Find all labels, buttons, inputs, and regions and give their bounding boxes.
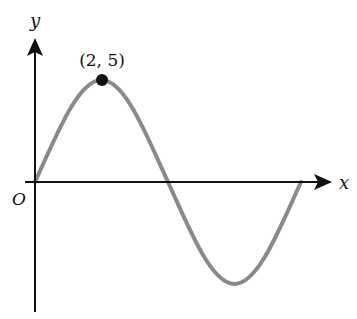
origin-label: O (12, 189, 26, 209)
peak-point-marker (96, 74, 108, 86)
y-axis-label: y (29, 10, 41, 31)
graph-svg: (2, 5) y x O (0, 0, 357, 319)
point-label: (2, 5) (79, 50, 125, 70)
x-axis-label: x (339, 172, 349, 193)
graph-figure: (2, 5) y x O (0, 0, 357, 319)
